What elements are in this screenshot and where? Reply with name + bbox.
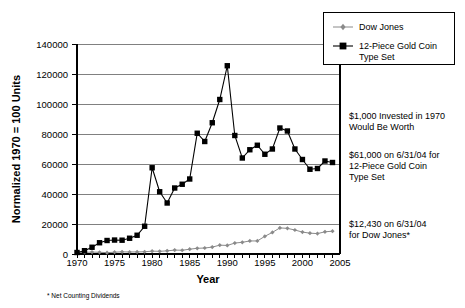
x-tick-label: 1970 (66, 257, 87, 268)
y-tick-label: 80000 (42, 129, 68, 140)
series-gold-coin-set (74, 63, 335, 255)
data-point-marker (149, 165, 154, 170)
data-point-marker (247, 147, 252, 152)
data-point-marker (89, 245, 94, 250)
data-point-marker (74, 250, 79, 255)
legend-label-gold-coin-set: 12-Piece Gold Coin (359, 41, 437, 51)
y-tick-label: 100000 (36, 99, 68, 110)
data-point-marker (277, 125, 282, 130)
annotation-dow-value: $12,430 on 6/31/04 for Dow Jones* (349, 219, 427, 240)
normalized-investment-line-chart: 140000 120000 100000 80000 60000 40000 2… (0, 0, 465, 308)
data-point-marker (172, 185, 177, 190)
data-point-marker (292, 146, 297, 151)
data-point-marker (293, 228, 297, 232)
y-tick-label: 20000 (42, 219, 68, 230)
y-axis-tick-labels: 140000 120000 100000 80000 60000 40000 2… (36, 39, 68, 260)
data-point-marker (195, 131, 200, 136)
annotation-line: $61,000 on 6/31/04 for (349, 150, 440, 160)
data-point-marker (202, 139, 207, 144)
data-point-marker (134, 233, 139, 238)
data-point-marker (210, 120, 215, 125)
annotation-gold-value: $61,000 on 6/31/04 for 12-Piece Gold Coi… (349, 150, 440, 182)
annotation-line: 12-Piece Gold Coin (349, 161, 427, 171)
data-point-marker (143, 250, 147, 254)
chart-footnote: * Net Counting Dividends (47, 292, 120, 300)
data-point-marker (255, 143, 260, 148)
data-point-marker (270, 146, 275, 151)
x-tick-label: 1980 (142, 257, 163, 268)
data-point-marker (307, 167, 312, 172)
chart-container: 140000 120000 100000 80000 60000 40000 2… (0, 0, 465, 308)
data-point-marker (127, 236, 132, 241)
data-point-marker (188, 247, 192, 251)
data-point-marker (240, 240, 244, 244)
gridlines (77, 44, 340, 224)
annotation-line: $1,000 Invested in 1970 (349, 111, 445, 121)
square-marker-icon (340, 43, 347, 50)
data-point-marker (262, 152, 267, 157)
data-point-marker (82, 248, 87, 253)
legend-label-dow-jones: Dow Jones (359, 22, 404, 32)
data-point-marker (315, 166, 320, 171)
data-point-marker (203, 246, 207, 250)
data-point-marker (308, 231, 312, 235)
data-point-marker (150, 249, 154, 253)
data-point-marker (120, 250, 124, 254)
x-tick-label: 1995 (254, 257, 275, 268)
data-point-marker (173, 248, 177, 252)
data-point-marker (232, 133, 237, 138)
y-tick-label: 120000 (36, 69, 68, 80)
y-tick-label: 140000 (36, 39, 68, 50)
data-point-marker (142, 224, 147, 229)
data-point-marker (217, 97, 222, 102)
data-point-marker (233, 241, 237, 245)
annotation-line: Would Be Worth (349, 122, 414, 132)
data-point-marker (248, 239, 252, 243)
y-axis-ticks (72, 44, 77, 254)
annotation-line: $12,430 on 6/31/04 (349, 219, 427, 229)
data-point-marker (157, 189, 162, 194)
y-tick-label: 60000 (42, 159, 68, 170)
data-point-marker (330, 160, 335, 165)
data-point-marker (330, 229, 334, 233)
data-point-marker (180, 248, 184, 252)
data-point-marker (180, 182, 185, 187)
x-tick-label: 1990 (217, 257, 238, 268)
data-point-marker (300, 230, 304, 234)
data-point-marker (104, 238, 109, 243)
data-point-marker (112, 237, 117, 242)
data-point-marker (195, 246, 199, 250)
data-point-marker (164, 200, 169, 205)
data-point-marker (285, 128, 290, 133)
axes (77, 44, 340, 254)
x-tick-label: 2005 (329, 257, 350, 268)
chart-legend[interactable]: Dow Jones 12-Piece Gold Coin Type Set (323, 12, 454, 64)
data-point-marker (278, 226, 282, 230)
data-point-marker (165, 249, 169, 253)
y-axis-title: Normalized 1970 = 100 Units (10, 75, 22, 223)
data-point-marker (119, 238, 124, 243)
legend-label-gold-coin-set-line2: Type Set (359, 52, 395, 62)
x-axis-tick-labels: 1970 1975 1980 1985 1990 1995 2000 2005 (66, 257, 350, 268)
annotation-line: Type Set (349, 172, 385, 182)
annotation-worth-header: $1,000 Invested in 1970 Would Be Worth (349, 111, 445, 132)
data-point-marker (322, 158, 327, 163)
data-point-marker (158, 249, 162, 253)
data-point-marker (285, 226, 289, 230)
x-tick-label: 1985 (179, 257, 200, 268)
data-point-marker (187, 176, 192, 181)
data-point-marker (225, 63, 230, 68)
y-tick-label: 40000 (42, 189, 68, 200)
data-point-marker (218, 243, 222, 247)
x-axis-title: Year (196, 273, 220, 285)
annotation-line: for Dow Jones* (349, 230, 411, 240)
x-tick-label: 2000 (292, 257, 313, 268)
x-tick-label: 1975 (104, 257, 125, 268)
data-point-marker (323, 230, 327, 234)
data-point-marker (135, 250, 139, 254)
data-point-marker (300, 157, 305, 162)
data-point-marker (225, 243, 229, 247)
data-point-marker (210, 245, 214, 249)
data-point-marker (240, 155, 245, 160)
data-point-marker (97, 240, 102, 245)
